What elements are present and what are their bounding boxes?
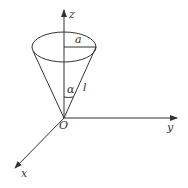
radius-label: a bbox=[75, 33, 82, 46]
z-axis-label: z bbox=[68, 8, 75, 21]
x-axis bbox=[15, 118, 64, 168]
diagram-canvas: z a α l O y x bbox=[0, 0, 188, 188]
origin-label: O bbox=[59, 119, 68, 132]
angle-arc bbox=[64, 97, 73, 98]
x-axis-label: x bbox=[21, 167, 28, 180]
cone-left-edge bbox=[33, 51, 64, 118]
y-axis-label: y bbox=[166, 121, 174, 134]
slant-height-label: l bbox=[83, 81, 87, 94]
cone-diagram: z a α l O y x bbox=[0, 0, 188, 188]
half-angle-label: α bbox=[67, 83, 75, 96]
